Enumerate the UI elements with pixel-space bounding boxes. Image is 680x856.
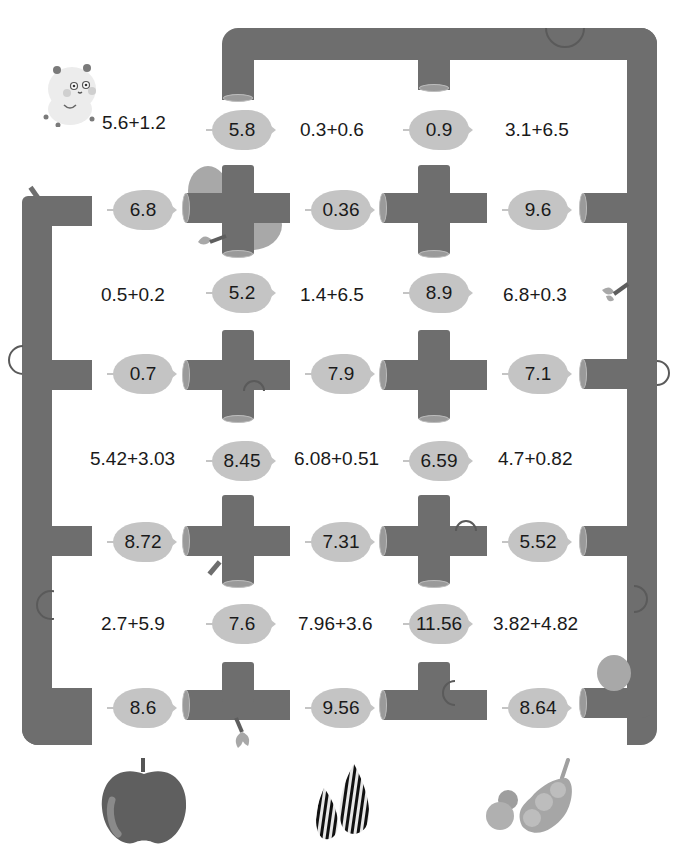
log-endcap bbox=[419, 415, 449, 423]
expression-r3-c3: 4.7+0.82 bbox=[498, 448, 573, 470]
log-endcap bbox=[379, 193, 387, 223]
log-cross-r3-a-v bbox=[222, 495, 254, 585]
log-endcap bbox=[182, 526, 190, 556]
answer-leaf[interactable]: 5.52 bbox=[502, 522, 572, 562]
expression-r4-c3: 3.82+4.82 bbox=[493, 613, 578, 635]
wood-ring bbox=[620, 585, 648, 613]
answer-leaf[interactable]: 6.59 bbox=[403, 441, 473, 481]
wood-ring bbox=[545, 8, 585, 48]
answer-leaf[interactable]: 9.56 bbox=[305, 688, 375, 728]
apple-icon[interactable] bbox=[98, 756, 190, 848]
log-endcap bbox=[579, 526, 587, 556]
log-endcap bbox=[379, 690, 387, 720]
answer-leaf[interactable]: 8.64 bbox=[502, 688, 572, 728]
answer-leaf[interactable]: 0.36 bbox=[305, 190, 375, 230]
hamster-start-icon bbox=[40, 55, 106, 127]
sprout-leaf-icon bbox=[600, 282, 632, 306]
expression-r4-c1: 2.7+5.9 bbox=[101, 613, 165, 635]
log-endcap bbox=[182, 690, 190, 720]
log-endcap bbox=[579, 359, 587, 389]
log-right-arm-row1 bbox=[583, 193, 643, 223]
log-endcap bbox=[223, 415, 253, 423]
wood-ring bbox=[36, 590, 66, 620]
log-tee-r4-a-v bbox=[222, 662, 254, 702]
answer-leaf[interactable]: 5.8 bbox=[206, 110, 276, 150]
log-endcap bbox=[379, 526, 387, 556]
answer-leaf[interactable]: 8.6 bbox=[107, 688, 177, 728]
expression-r1-c1: 5.6+1.2 bbox=[102, 112, 166, 134]
answer-leaf[interactable]: 9.6 bbox=[502, 190, 572, 230]
log-endcap bbox=[419, 84, 449, 92]
expression-r3-c2: 6.08+0.51 bbox=[294, 448, 379, 470]
log-endcap bbox=[579, 688, 587, 718]
sprout-leaf-icon bbox=[194, 228, 230, 256]
log-right-arm-row2 bbox=[583, 359, 643, 389]
answer-leaf[interactable]: 7.9 bbox=[305, 354, 375, 394]
log-right-arm-row3 bbox=[583, 526, 643, 556]
answer-leaf[interactable]: 7.6 bbox=[206, 604, 276, 644]
log-cross-r2-b-v bbox=[418, 330, 450, 420]
answer-leaf[interactable]: 8.45 bbox=[206, 441, 276, 481]
answer-leaf[interactable]: 8.72 bbox=[107, 522, 177, 562]
log-cross-r3-b-v bbox=[418, 495, 450, 585]
log-cross-r2-a-v bbox=[222, 330, 254, 420]
sunflower-seeds-icon[interactable] bbox=[312, 762, 378, 842]
log-endcap bbox=[579, 193, 587, 223]
expression-r2-c1: 0.5+0.2 bbox=[101, 284, 165, 306]
expression-r1-c3: 3.1+6.5 bbox=[505, 119, 569, 141]
expression-r3-c1: 5.42+3.03 bbox=[90, 448, 175, 470]
log-endcap bbox=[223, 94, 253, 102]
log-endcap bbox=[182, 360, 190, 390]
log-endcap bbox=[419, 250, 449, 258]
expression-r2-c2: 1.4+6.5 bbox=[300, 284, 364, 306]
answer-leaf[interactable]: 7.31 bbox=[305, 522, 375, 562]
answer-leaf[interactable]: 5.2 bbox=[206, 273, 276, 313]
log-endcap bbox=[379, 360, 387, 390]
expression-r2-c3: 6.8+0.3 bbox=[503, 284, 567, 306]
answer-leaf[interactable]: 0.9 bbox=[403, 110, 473, 150]
log-cross-r1-b-v bbox=[418, 165, 450, 255]
answer-leaf[interactable]: 0.7 bbox=[107, 354, 177, 394]
log-endcap bbox=[223, 580, 253, 588]
log-right-arm-row4 bbox=[583, 688, 657, 718]
log-left-arm-row4 bbox=[22, 688, 92, 745]
answer-leaf[interactable]: 8.9 bbox=[403, 273, 473, 313]
log-top-left-stub bbox=[222, 50, 254, 100]
log-left-arm-row3 bbox=[22, 526, 92, 556]
answer-leaf[interactable]: 6.8 bbox=[107, 190, 177, 230]
log-left-frame bbox=[22, 196, 52, 745]
log-left-top-arm bbox=[22, 196, 92, 226]
sprout-leaf-icon bbox=[228, 716, 254, 750]
log-endcap bbox=[419, 580, 449, 588]
answer-leaf[interactable]: 11.56 bbox=[403, 604, 473, 644]
expression-r1-c2: 0.3+0.6 bbox=[300, 119, 364, 141]
bush-decoration bbox=[597, 655, 631, 691]
log-endcap bbox=[182, 193, 190, 223]
expression-r4-c2: 7.96+3.6 bbox=[298, 613, 373, 635]
pea-pod-icon[interactable] bbox=[484, 756, 584, 842]
answer-leaf[interactable]: 7.1 bbox=[502, 354, 572, 394]
log-left-arm-row2 bbox=[22, 360, 92, 390]
log-branch-stub bbox=[207, 560, 221, 575]
